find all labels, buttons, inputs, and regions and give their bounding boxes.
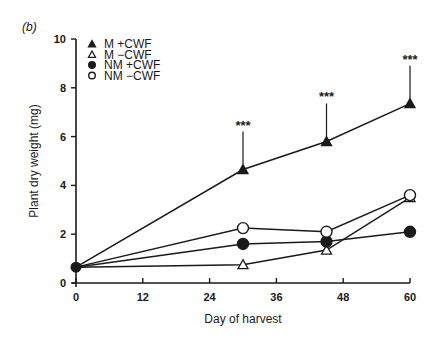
filled-circle-marker bbox=[405, 226, 416, 237]
origin-marker bbox=[71, 262, 82, 273]
x-tick-label: 60 bbox=[404, 291, 416, 303]
open-circle-marker bbox=[405, 190, 416, 201]
legend-label: NM −CWF bbox=[104, 69, 160, 83]
open-triangle-marker bbox=[89, 51, 96, 57]
y-tick-label: 8 bbox=[60, 82, 66, 94]
line-chart: 024681001224364860Day of harvestPlant dr… bbox=[0, 0, 441, 347]
filled-triangle-marker bbox=[89, 41, 96, 47]
filled-triangle-marker bbox=[405, 99, 415, 108]
y-tick-label: 10 bbox=[54, 33, 66, 45]
y-tick-label: 6 bbox=[60, 131, 66, 143]
significance-stars: *** bbox=[319, 89, 335, 104]
y-tick-label: 4 bbox=[60, 179, 67, 191]
legend: M +CWFM −CWFNM +CWFNM −CWF bbox=[89, 37, 161, 83]
open-circle-marker bbox=[321, 226, 332, 237]
x-axis-title: Day of harvest bbox=[204, 312, 282, 326]
series-3 bbox=[76, 190, 416, 267]
filled-triangle-marker bbox=[322, 136, 332, 145]
x-tick-label: 48 bbox=[337, 291, 349, 303]
filled-circle-marker bbox=[89, 62, 96, 69]
x-tick-label: 0 bbox=[73, 291, 79, 303]
x-tick-label: 24 bbox=[203, 291, 216, 303]
open-circle-marker bbox=[89, 72, 96, 79]
y-tick-label: 0 bbox=[60, 277, 66, 289]
y-tick-label: 2 bbox=[60, 228, 66, 240]
significance-stars: *** bbox=[402, 52, 418, 67]
x-tick-label: 12 bbox=[137, 291, 149, 303]
open-circle-marker bbox=[238, 223, 249, 234]
y-axis-title: Plant dry weight (mg) bbox=[27, 104, 41, 217]
significance-stars: *** bbox=[235, 118, 251, 133]
filled-circle-marker bbox=[238, 238, 249, 249]
x-tick-label: 36 bbox=[270, 291, 282, 303]
